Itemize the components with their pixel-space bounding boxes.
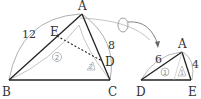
- label-ac-length: 8: [108, 39, 115, 52]
- diagram-canvas: 2 2 A B C D E 12 8 1 1 A D E 6 4: [0, 0, 201, 99]
- triangle-mark-label: 2: [89, 63, 93, 71]
- side-ab: [9, 14, 82, 80]
- transform-arrow: [118, 18, 160, 48]
- label-ad-length: 6: [155, 53, 162, 66]
- triangle-mark-label-small: 1: [180, 69, 184, 77]
- right-triangle: 1 1 A D E 6 4: [136, 37, 199, 99]
- label-ab-length: 12: [22, 28, 36, 41]
- circle-mark-label: 2: [55, 54, 59, 62]
- vertex-a-left: A: [77, 0, 87, 13]
- arrow-head-icon: [155, 41, 160, 48]
- vertex-e-right: E: [188, 85, 197, 99]
- label-ae-length: 4: [192, 58, 199, 71]
- vertex-c-left: C: [108, 85, 117, 99]
- circle-mark-label-small: 1: [163, 69, 167, 77]
- similar-triangles-diagram: 2 2 A B C D E 12 8 1 1 A D E 6 4: [0, 0, 201, 99]
- vertex-d-left: D: [105, 55, 115, 69]
- vertex-d-right: D: [136, 85, 146, 99]
- vertex-b: B: [2, 85, 11, 99]
- inner-arc-2: [79, 25, 110, 80]
- arrow-curve: [128, 22, 158, 45]
- inner-arc-1: [9, 25, 79, 80]
- side-ac: [82, 14, 110, 80]
- segment-ed: [57, 36, 102, 61]
- left-triangle: 2 2 A B C D E 12 8: [2, 0, 150, 99]
- vertex-a-right: A: [177, 37, 187, 51]
- vertex-e-left: E: [50, 25, 59, 39]
